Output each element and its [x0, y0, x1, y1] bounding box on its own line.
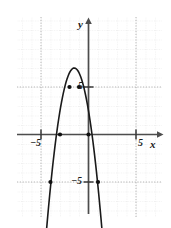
x-axis-tick-label-pos5: 5: [138, 138, 143, 148]
coordinate-plane-svg: [0, 0, 171, 228]
point-marker: [48, 180, 52, 184]
x-axis-name-label: x: [150, 139, 156, 150]
point-marker: [96, 180, 100, 184]
graph-figure: −5 5 x 5 −5 y: [0, 0, 171, 228]
x-axis-tick-label-neg5: −5: [30, 138, 41, 148]
point-marker: [58, 132, 62, 136]
y-axis-name-label: y: [78, 19, 83, 30]
y-axis-tick-label-neg5: −5: [71, 176, 82, 186]
y-axis-tick-label-pos5: 5: [78, 81, 83, 91]
point-marker: [86, 132, 90, 136]
point-marker: [67, 85, 71, 89]
